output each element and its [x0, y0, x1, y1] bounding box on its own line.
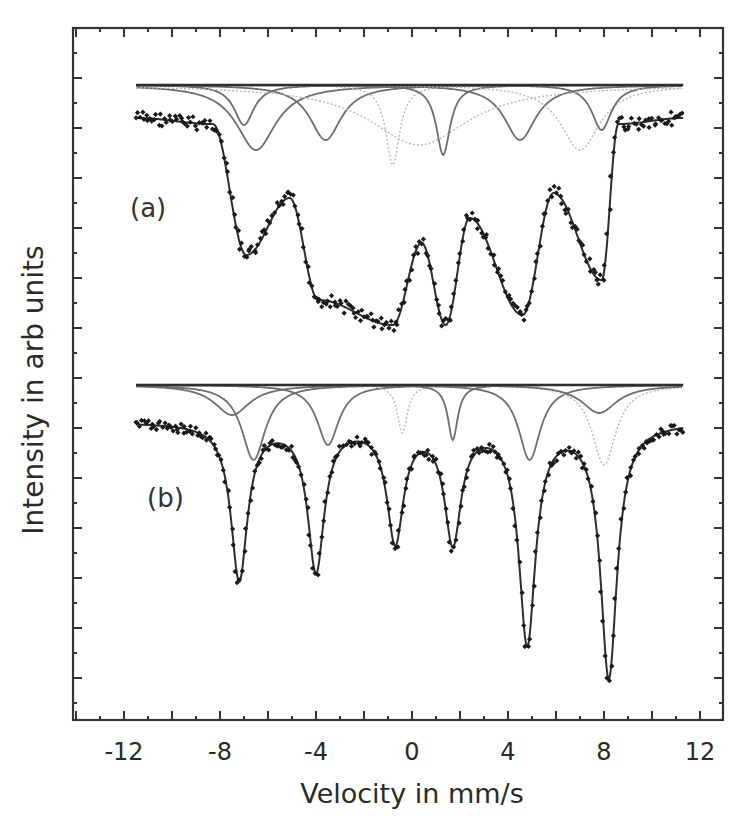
x-tick-label: -4 [304, 738, 328, 766]
panel-label-a: (a) [130, 193, 166, 223]
x-tick-label: 0 [404, 738, 419, 766]
x-tick-label: -12 [104, 738, 143, 766]
panel-label-b: (b) [147, 483, 184, 513]
spectrum-a [134, 85, 685, 333]
x-tick-label: 12 [685, 738, 716, 766]
spectrum-b [133, 385, 685, 683]
x-axis-label: Velocity in mm/s [0, 778, 754, 809]
x-tick-label: -8 [208, 738, 232, 766]
x-tick-label: 4 [500, 738, 515, 766]
mossbauer-spectra-plot [0, 0, 754, 834]
y-axis-label: Intensity in arb units [8, 230, 58, 550]
x-tick-label: 8 [596, 738, 611, 766]
